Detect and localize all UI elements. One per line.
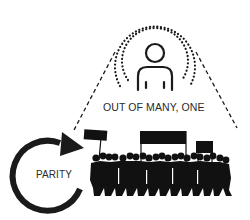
- dashed-connector-lines: [74, 52, 237, 130]
- person-icon: [138, 44, 172, 90]
- protest-crowd-icon: [84, 129, 232, 196]
- halo-arcs-icon: [115, 27, 195, 86]
- parity-label: PARITY: [36, 169, 72, 180]
- diagram: OUT OF MANY, ONE PARITY: [0, 0, 250, 220]
- motto-label: OUT OF MANY, ONE: [103, 101, 205, 113]
